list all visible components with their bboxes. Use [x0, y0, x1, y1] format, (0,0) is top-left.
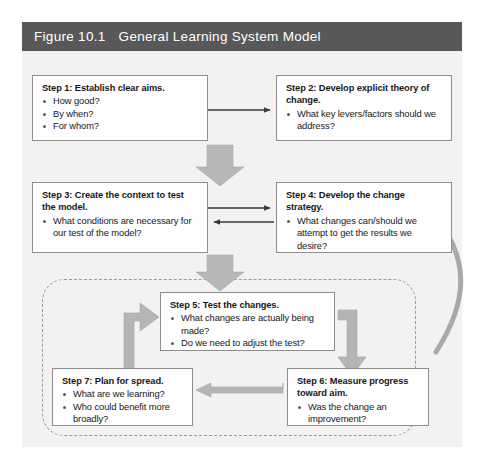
- step-5-bullet-text: Do we need to adjust the test?: [181, 337, 305, 348]
- bullet-icon: [63, 393, 66, 396]
- step-7-bullet: Who could benefit more broadly?: [62, 401, 184, 426]
- step-box-7[interactable]: Step 7: Plan for spread. What are we lea…: [52, 368, 193, 426]
- step-3-bullet-text: What conditions are necessary for our te…: [53, 215, 191, 238]
- step-1-bullet-list: How good? By when? For whom?: [42, 95, 199, 132]
- step-7-bullet-list: What are we learning? Who could benefit …: [62, 388, 184, 425]
- bullet-icon: [43, 113, 46, 116]
- step-1-bullet: How good?: [42, 95, 199, 107]
- step-7-bullet-text: Who could benefit more broadly?: [73, 401, 170, 424]
- figure-title: General Learning System Model: [119, 29, 321, 44]
- step-3-bullet: What conditions are necessary for our te…: [42, 215, 199, 240]
- step-2-bullet-list: What key levers/factors should we addres…: [286, 108, 443, 133]
- step-6-bullet-list: Was the change an improvement?: [297, 401, 420, 426]
- bullet-icon: [43, 100, 46, 103]
- step-1-bullet-text: By when?: [53, 108, 93, 119]
- step-box-6[interactable]: Step 6: Measure progress toward aim. Was…: [287, 368, 429, 426]
- step-7-bullet-text: What are we learning?: [73, 388, 165, 399]
- step-1-bullet: For whom?: [42, 120, 199, 132]
- bullet-icon: [298, 406, 301, 409]
- step-5-bullet-text: What changes are actually being made?: [181, 312, 314, 335]
- figure-title-bar: Figure 10.1 General Learning System Mode…: [22, 22, 462, 51]
- step-box-1[interactable]: Step 1: Establish clear aims. How good? …: [32, 75, 208, 141]
- step-2-heading: Step 2: Develop explicit theory of chang…: [286, 82, 443, 107]
- step-1-bullet: By when?: [42, 108, 199, 120]
- step-box-3[interactable]: Step 3: Create the context to test the m…: [32, 182, 208, 253]
- step-box-5[interactable]: Step 5: Test the changes. What changes a…: [160, 292, 335, 351]
- figure-number: Figure 10.1: [34, 29, 106, 44]
- step-3-heading: Step 3: Create the context to test the m…: [42, 189, 199, 214]
- step-5-bullet: Do we need to adjust the test?: [170, 337, 326, 349]
- bullet-icon: [171, 342, 174, 345]
- step-5-bullet: What changes are actually being made?: [170, 312, 326, 337]
- bullet-icon: [43, 125, 46, 128]
- figure-container: Figure 10.1 General Learning System Mode…: [0, 0, 484, 461]
- step-5-heading: Step 5: Test the changes.: [170, 299, 326, 311]
- bullet-icon: [43, 220, 46, 223]
- step-6-bullet: Was the change an improvement?: [297, 401, 420, 426]
- step-4-bullet: What changes can/should we attempt to ge…: [286, 215, 443, 252]
- bullet-icon: [171, 317, 174, 320]
- step-4-bullet-text: What changes can/should we attempt to ge…: [297, 215, 417, 251]
- step-1-bullet-text: For whom?: [53, 120, 99, 131]
- step-2-bullet: What key levers/factors should we addres…: [286, 108, 443, 133]
- step-3-bullet-list: What conditions are necessary for our te…: [42, 215, 199, 240]
- step-7-heading: Step 7: Plan for spread.: [62, 375, 184, 387]
- step-box-4[interactable]: Step 4: Develop the change strategy. Wha…: [276, 182, 452, 253]
- step-1-bullet-text: How good?: [53, 95, 100, 106]
- step-2-bullet-text: What key levers/factors should we addres…: [297, 108, 436, 131]
- step-7-bullet: What are we learning?: [62, 388, 184, 400]
- step-box-2[interactable]: Step 2: Develop explicit theory of chang…: [276, 75, 452, 141]
- step-4-heading: Step 4: Develop the change strategy.: [286, 189, 443, 214]
- step-5-bullet-list: What changes are actually being made? Do…: [170, 312, 326, 349]
- bullet-icon: [63, 406, 66, 409]
- bullet-icon: [287, 220, 290, 223]
- step-6-heading: Step 6: Measure progress toward aim.: [297, 375, 420, 400]
- bullet-icon: [287, 113, 290, 116]
- step-1-heading: Step 1: Establish clear aims.: [42, 82, 199, 94]
- step-6-bullet-text: Was the change an improvement?: [308, 401, 387, 424]
- step-4-bullet-list: What changes can/should we attempt to ge…: [286, 215, 443, 252]
